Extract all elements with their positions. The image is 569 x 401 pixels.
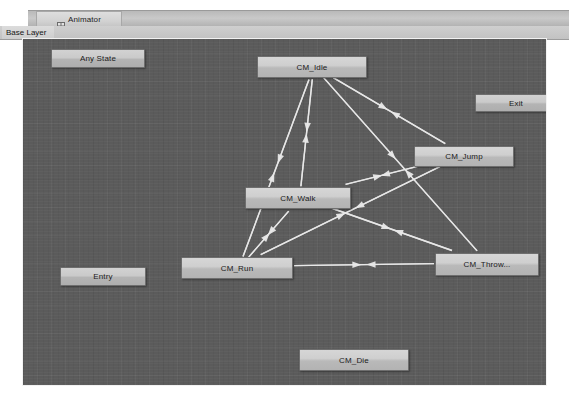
state-node-any_state[interactable]: Any State xyxy=(51,49,145,68)
state-node-cm_die[interactable]: CM_Die xyxy=(299,349,409,371)
transition-arrow-icon xyxy=(391,112,401,120)
tab-animator[interactable]: Animator xyxy=(36,11,122,27)
state-node-cm_run[interactable]: CM_Run xyxy=(181,257,293,279)
state-node-cm_idle[interactable]: CM_Idle xyxy=(257,56,367,78)
state-node-label: CM_Run xyxy=(221,264,253,273)
transition-arrow-icon xyxy=(381,170,391,176)
transition-cm_throw-to-cm_walk[interactable] xyxy=(333,209,452,251)
state-node-label: Exit xyxy=(509,99,523,108)
transition-cm_jump-to-cm_idle[interactable] xyxy=(333,78,445,144)
state-node-cm_throw[interactable]: CM_Throw... xyxy=(435,253,539,276)
state-node-label: Any State xyxy=(80,54,116,63)
animator-window: Animator Base Layer Any StateExitEntryCM… xyxy=(0,0,569,401)
animator-graph-canvas[interactable]: Any StateExitEntryCM_IdleCM_JumpCM_WalkC… xyxy=(22,38,547,386)
state-node-cm_jump[interactable]: CM_Jump xyxy=(414,146,514,167)
state-node-cm_walk[interactable]: CM_Walk xyxy=(245,187,351,209)
state-node-label: CM_Idle xyxy=(297,63,328,72)
breadcrumb-base-layer-label: Base Layer xyxy=(6,28,46,37)
state-node-exit[interactable]: Exit xyxy=(475,94,547,112)
transition-cm_run-to-cm_idle[interactable] xyxy=(243,80,309,257)
tab-bar: Animator xyxy=(28,10,569,27)
state-node-label: CM_Jump xyxy=(445,152,483,161)
transition-arrow-icon xyxy=(302,133,309,143)
transition-line xyxy=(333,78,445,144)
animator-icon xyxy=(57,16,65,24)
state-node-label: CM_Die xyxy=(339,356,369,365)
state-node-label: Entry xyxy=(93,272,112,281)
transition-line xyxy=(294,264,434,266)
transition-arrow-icon xyxy=(366,261,375,268)
transition-arrow-icon xyxy=(394,230,404,236)
transition-cm_jump-to-cm_walk[interactable] xyxy=(346,166,418,184)
transitions-layer xyxy=(23,39,547,386)
transition-line xyxy=(261,167,440,255)
state-node-entry[interactable]: Entry xyxy=(60,267,146,286)
state-node-label: CM_Walk xyxy=(280,194,315,203)
transition-line xyxy=(243,80,309,257)
state-node-label: CM_Throw... xyxy=(464,260,511,269)
tab-animator-label: Animator xyxy=(68,15,101,24)
transition-arrow-icon xyxy=(268,173,274,183)
transition-cm_jump-to-cm_run[interactable] xyxy=(261,167,440,255)
transition-line xyxy=(333,209,452,251)
transition-arrow-icon xyxy=(355,201,365,208)
transition-cm_throw-to-cm_run[interactable] xyxy=(294,261,434,268)
